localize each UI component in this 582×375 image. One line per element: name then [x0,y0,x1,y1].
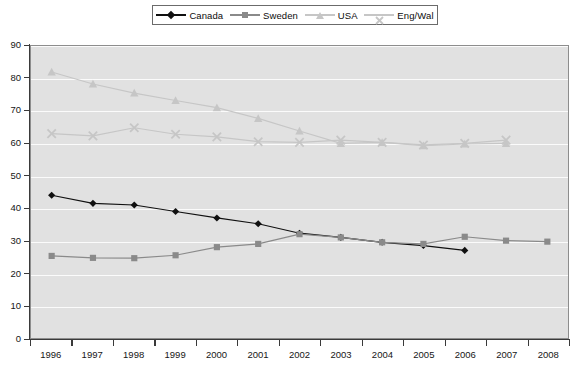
series-layer [31,46,568,338]
x-axis-tick-label: 2004 [362,349,402,360]
y-axis-tick-label: 0 [0,333,21,344]
y-axis-tick [24,45,30,46]
y-axis-tick [24,306,30,307]
diamond-marker-icon [89,200,96,207]
y-axis-tick [24,110,30,111]
plot-area [30,45,569,339]
y-axis-tick-label: 20 [0,268,21,279]
y-axis-tick-label: 30 [0,235,21,246]
legend-item-label: Sweden [263,10,298,21]
y-axis-tick-label: 90 [0,39,21,50]
y-axis-tick-label: 10 [0,300,21,311]
square-marker-icon [214,244,220,250]
series-sweden [49,231,551,261]
x-axis-tick [320,340,321,346]
square-marker-icon [420,241,426,247]
line-chart: CanadaSwedenUSAEng/Wal 90807060504030201… [0,0,582,375]
triangle-marker-icon [316,12,324,19]
x-axis-tick [279,340,280,346]
x-axis-tick [528,340,529,346]
series-line [52,128,506,145]
diamond-marker-icon [48,192,55,199]
y-axis-tick [24,273,30,274]
x-axis-tick [113,340,114,346]
square-marker-icon [131,255,137,261]
x-axis-tick [30,340,31,346]
square-marker-icon [49,253,55,259]
square-marker-icon [255,241,261,247]
x-axis-tick [569,340,570,346]
y-axis-tick [24,241,30,242]
square-marker-icon [544,239,550,245]
series-line [52,234,548,258]
x-axis-tick-label: 1996 [31,349,71,360]
y-axis-line [29,44,30,340]
legend-item-canada[interactable]: Canada [155,6,224,24]
x-axis-tick [154,340,155,346]
x-axis-tick [237,340,238,346]
legend-swatch [230,9,260,21]
y-axis-tick-label: 50 [0,170,21,181]
diamond-marker-icon [213,214,220,221]
y-axis-tick-label: 80 [0,72,21,83]
triangle-marker-icon [47,68,55,76]
x-axis-tick-label: 1998 [114,349,154,360]
y-axis-tick [24,77,30,78]
square-marker-icon [503,238,509,244]
diamond-marker-icon [461,247,468,254]
y-axis-tick [24,143,30,144]
series-line [52,72,506,146]
y-axis-tick [24,208,30,209]
y-axis-tick-label: 40 [0,202,21,213]
legend-item-label: Eng/Wal [397,10,433,21]
square-marker-icon [338,234,344,240]
square-marker-icon [90,255,96,261]
legend-item-sweden[interactable]: Sweden [229,6,299,24]
x-axis-tick-label: 2000 [197,349,237,360]
legend-swatch [156,9,186,21]
x-axis-tick-label: 2007 [487,349,527,360]
x-axis-tick [196,340,197,346]
series-usa [47,68,510,149]
square-marker-icon [462,234,468,240]
x-axis-tick-label: 1999 [155,349,195,360]
x-axis-tick-label: 2006 [445,349,485,360]
square-marker-icon [296,231,302,237]
x-axis-tick [362,340,363,346]
square-marker-icon [379,239,385,245]
x-axis-tick-label: 1997 [72,349,112,360]
square-marker-icon [172,252,178,258]
y-axis-tick-label: 70 [0,104,21,115]
square-marker-icon [242,12,248,18]
diamond-marker-icon [255,220,262,227]
x-axis-tick-label: 2008 [528,349,568,360]
x-axis-tick-label: 2005 [404,349,444,360]
diamond-marker-icon [167,11,175,19]
y-axis-tick [24,175,30,176]
x-axis-line [29,339,570,340]
legend-item-label: USA [338,10,358,21]
x-axis-tick-label: 2002 [280,349,320,360]
legend-item-eng-wal[interactable]: Eng/Wal [363,6,434,24]
x-axis-tick [403,340,404,346]
y-axis-tick-label: 60 [0,137,21,148]
x-axis-tick [486,340,487,346]
x-axis-tick-label: 2003 [321,349,361,360]
diamond-marker-icon [172,208,179,215]
diamond-marker-icon [131,201,138,208]
legend-swatch [305,9,335,21]
x-axis-tick-label: 2001 [238,349,278,360]
x-axis-tick [445,340,446,346]
legend-swatch [364,9,394,21]
legend-item-usa[interactable]: USA [304,6,359,24]
x-axis-tick [71,340,72,346]
cross-marker-icon [375,11,384,20]
legend-item-label: Canada [189,10,223,21]
chart-legend: CanadaSwedenUSAEng/Wal [152,5,438,25]
